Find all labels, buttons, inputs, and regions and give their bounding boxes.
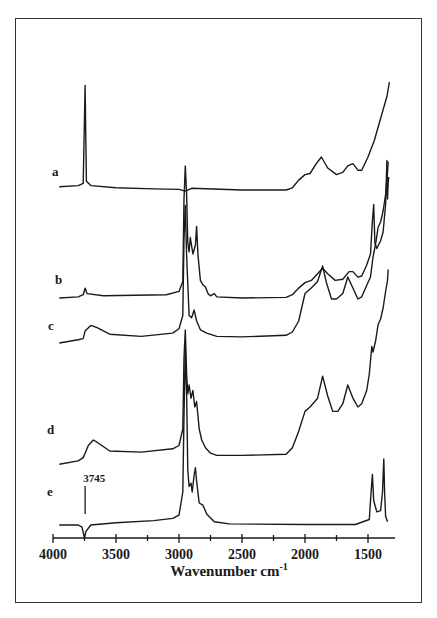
spectrum-curve-a <box>59 82 389 191</box>
x-tick-label: 1500 <box>354 547 382 562</box>
spectra-curves <box>59 82 389 538</box>
curve-label-a: a <box>52 164 59 179</box>
curve-label-c: c <box>48 318 54 333</box>
annotation-label: 3745 <box>83 472 106 484</box>
x-axis-title: Wavenumber cm-1 <box>170 561 288 579</box>
curve-label-d: d <box>47 422 55 437</box>
annotations: 3745 <box>83 472 106 514</box>
spectrum-curve-e <box>59 349 387 538</box>
x-tick-label: 3500 <box>102 547 130 562</box>
x-tick-label: 4000 <box>39 547 67 562</box>
curve-labels: abcde <box>47 164 62 499</box>
x-tick-label: 2500 <box>228 547 256 562</box>
x-axis-title-text: Wavenumber cm <box>170 563 280 579</box>
x-tick-label: 3000 <box>165 547 193 562</box>
spectrum-curve-b <box>59 161 389 299</box>
spectrum-curve-d <box>59 270 388 465</box>
x-axis: 400035003000250020001500 <box>39 534 395 562</box>
curve-label-b: b <box>55 272 62 287</box>
x-axis-title-superscript: -1 <box>280 561 288 572</box>
ir-spectra-chart: abcde 400035003000250020001500 Wavenumbe… <box>0 0 437 618</box>
x-tick-label: 2000 <box>291 547 319 562</box>
curve-label-e: e <box>47 484 53 499</box>
